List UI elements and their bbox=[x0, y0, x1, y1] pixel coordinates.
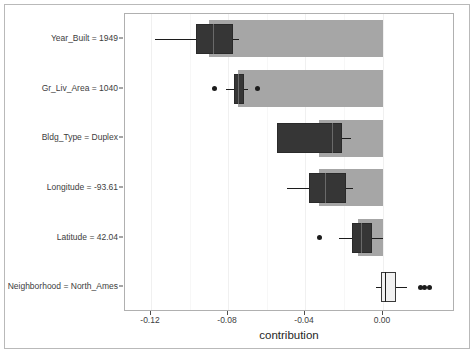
breakdown-boxplot-figure: Year_Built = 1949Gr_Liv_Area = 1040Bldg_… bbox=[0, 0, 474, 353]
boxplot-outlier bbox=[422, 285, 427, 290]
boxplot-box bbox=[196, 24, 233, 54]
boxplot-outlier bbox=[255, 86, 260, 91]
x-axis-tick-label: -0.12 bbox=[140, 316, 159, 325]
x-axis-tick-label: -0.04 bbox=[294, 316, 313, 325]
y-axis-tick bbox=[119, 186, 123, 187]
y-axis-tick bbox=[119, 236, 123, 237]
boxplot-median bbox=[238, 74, 239, 104]
boxplot-outlier bbox=[212, 86, 217, 91]
y-axis-tick bbox=[119, 87, 123, 88]
y-axis-tick-label: Gr_Liv_Area = 1040 bbox=[42, 83, 118, 92]
boxplot-median bbox=[385, 272, 386, 302]
y-axis-tick bbox=[119, 37, 123, 38]
gridline-major bbox=[228, 14, 229, 310]
boxplot-outlier bbox=[427, 285, 432, 290]
boxplot-median bbox=[361, 223, 362, 253]
boxplot-box bbox=[381, 272, 396, 302]
y-axis-tick-label: Year_Built = 1949 bbox=[51, 34, 118, 43]
x-axis-tick-label: 0.00 bbox=[374, 316, 391, 325]
gridline-major bbox=[305, 14, 306, 310]
y-axis-tick-label: Neighborhood = North_Ames bbox=[8, 282, 118, 291]
gridline-major bbox=[151, 14, 152, 310]
gridline-minor bbox=[267, 14, 268, 310]
boxplot-median bbox=[325, 173, 326, 203]
x-axis: -0.12-0.08-0.040.00 bbox=[124, 311, 454, 331]
x-axis-tick-label: -0.08 bbox=[217, 316, 236, 325]
boxplot-box bbox=[309, 173, 346, 203]
plot-panel bbox=[124, 13, 454, 311]
boxplot-median bbox=[332, 123, 333, 153]
gridline-minor bbox=[344, 14, 345, 310]
gridline-major bbox=[383, 14, 384, 310]
gridline-minor bbox=[190, 14, 191, 310]
y-axis-tick-label: Latitude = 42.04 bbox=[57, 232, 118, 241]
y-axis-tick bbox=[119, 137, 123, 138]
x-axis-title: contribution bbox=[124, 329, 454, 342]
boxplot-median bbox=[213, 24, 214, 54]
y-axis: Year_Built = 1949Gr_Liv_Area = 1040Bldg_… bbox=[0, 13, 118, 311]
y-axis-tick bbox=[119, 286, 123, 287]
y-axis-tick-label: Bldg_Type = Duplex bbox=[42, 133, 118, 142]
y-axis-tick-label: Longitude = -93.61 bbox=[47, 183, 118, 192]
boxplot-outlier bbox=[317, 235, 322, 240]
